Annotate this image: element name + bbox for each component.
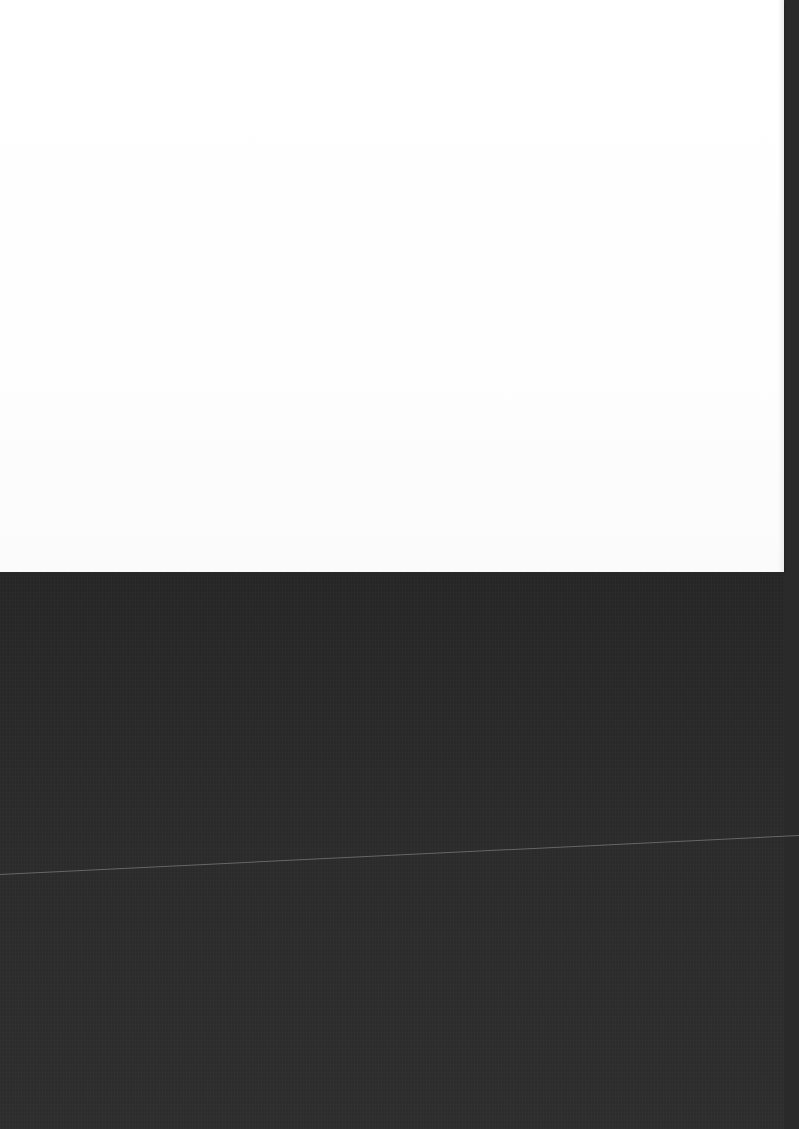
blank-paper-sheet	[0, 0, 784, 572]
thin-line	[0, 835, 799, 875]
dark-surface	[0, 572, 784, 1129]
